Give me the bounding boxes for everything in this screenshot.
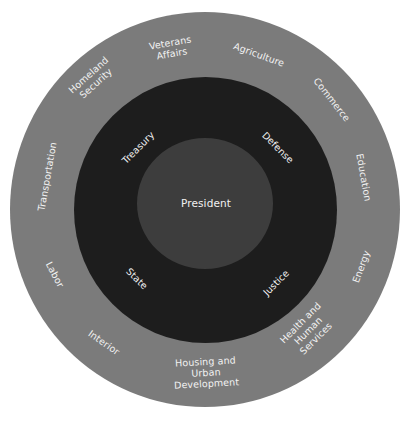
label-housing-and-urban-development: Housing and Urban Development — [167, 354, 245, 391]
label-president: President — [170, 198, 242, 209]
executive-branch-diagram: President Treasury Defense State Justice… — [0, 0, 410, 422]
